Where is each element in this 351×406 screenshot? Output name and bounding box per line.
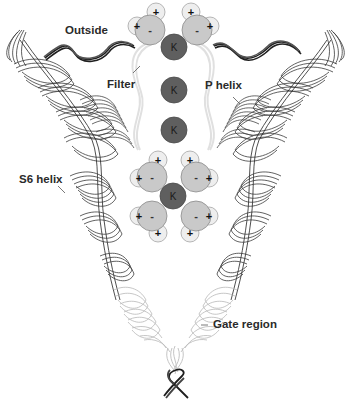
positive-charge-sign: + [187,227,193,239]
negative-charge-sign: - [195,24,199,36]
selectivity-filter-right [195,42,214,150]
negative-charge-sign: - [150,171,154,183]
negative-charge-sign: - [194,210,198,222]
s6-helix-label: S6 helix [19,174,62,186]
negative-charge-sign: - [148,24,152,36]
negative-charge-sign: - [194,171,198,183]
positive-charge-sign: + [153,6,159,18]
potassium-ion: K [161,34,187,60]
outer-loop-left [44,42,135,62]
positive-charge-sign: + [155,227,161,239]
water-molecule: -++ [181,201,218,242]
positive-charge-sign: + [136,172,142,184]
positive-charge-sign: + [206,210,212,222]
water-molecule: -++ [128,3,165,45]
positive-charge-sign: + [207,20,213,32]
helix-left-outer [7,30,134,300]
outer-loop-right [213,41,301,60]
positive-charge-sign: + [206,172,212,184]
helix-left-lower [114,287,170,352]
positive-charge-sign: + [188,6,194,18]
positive-charge-sign: + [155,154,161,166]
potassium-ion: K [161,77,187,103]
potassium-ion: K [161,117,187,143]
selectivity-filter-left [132,42,152,150]
positive-charge-sign: + [136,210,142,222]
ion-symbol: K [171,42,178,53]
water-molecule: -++ [130,151,167,192]
k-channel-diagram: -++-++-++-++-++-++ KKKK [0,0,351,406]
helix-right-outer [217,30,344,300]
gate-bundle [164,346,188,398]
ion-symbol: K [171,85,178,96]
outside-label: Outside [65,25,108,37]
filter-label: Filter [107,79,135,91]
gate-region-label: Gate region [213,319,277,331]
negative-charge-sign: - [150,210,154,222]
positive-charge-sign: + [134,20,140,32]
p-helix-label: P helix [205,80,242,92]
p-helix-leader-line [233,97,240,104]
s6-helix-leader-line [58,186,65,193]
water-molecule: -++ [182,3,219,45]
water-molecule: -++ [130,201,167,242]
ion-symbol: K [170,191,177,202]
positive-charge-sign: + [187,154,193,166]
ion-symbol: K [171,125,178,136]
potassium-ion: K [160,183,186,209]
water-molecule: -++ [181,151,218,192]
